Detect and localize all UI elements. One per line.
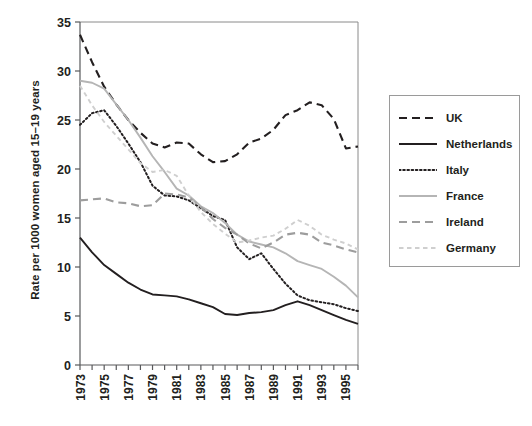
svg-text:1977: 1977 (122, 374, 136, 401)
svg-text:20: 20 (57, 163, 71, 177)
svg-text:1973: 1973 (74, 374, 88, 401)
svg-text:15: 15 (57, 212, 71, 226)
svg-text:35: 35 (57, 16, 71, 30)
legend-label-uk: UK (446, 112, 463, 124)
legend-label-ireland: Ireland (446, 216, 484, 228)
series-line-uk (80, 35, 358, 162)
legend-swatch-france (399, 190, 437, 202)
legend-label-germany: Germany (446, 242, 496, 254)
svg-text:1975: 1975 (98, 374, 112, 401)
chart-legend: UK Netherlands Italy France Ireland Germ… (389, 95, 520, 267)
svg-text:1981: 1981 (170, 374, 184, 401)
legend-label-netherlands: Netherlands (446, 138, 512, 150)
svg-text:1987: 1987 (243, 374, 257, 401)
chart-page: Rate per 1000 women aged 15–19 years 051… (0, 0, 532, 426)
legend-swatch-uk (399, 112, 437, 124)
legend-item-germany[interactable]: Germany (390, 235, 519, 261)
legend-item-ireland[interactable]: Ireland (390, 209, 519, 235)
series-line-france (80, 81, 358, 298)
svg-text:1979: 1979 (146, 374, 160, 401)
svg-text:0: 0 (64, 359, 71, 373)
svg-text:10: 10 (57, 261, 71, 275)
legend-label-italy: Italy (446, 164, 469, 176)
legend-swatch-netherlands (399, 138, 437, 150)
legend-swatch-italy (399, 164, 437, 176)
svg-text:5: 5 (64, 310, 71, 324)
svg-text:1985: 1985 (219, 374, 233, 401)
svg-text:1993: 1993 (315, 374, 329, 401)
legend-swatch-germany (399, 242, 437, 254)
plot-area: 0510152025303519731975197719791981198319… (0, 0, 385, 426)
legend-label-france: France (446, 190, 484, 202)
svg-text:1991: 1991 (291, 374, 305, 401)
series-line-ireland (80, 194, 358, 253)
line-chart: Rate per 1000 women aged 15–19 years 051… (0, 0, 385, 426)
legend-item-italy[interactable]: Italy (390, 157, 519, 183)
svg-text:1989: 1989 (267, 374, 281, 401)
svg-text:25: 25 (57, 114, 71, 128)
legend-item-france[interactable]: France (390, 183, 519, 209)
legend-item-uk[interactable]: UK (390, 105, 519, 131)
svg-text:30: 30 (57, 65, 71, 79)
legend-swatch-ireland (399, 216, 437, 228)
series-line-netherlands (80, 238, 358, 324)
series-line-italy (80, 110, 358, 311)
legend-item-netherlands[interactable]: Netherlands (390, 131, 519, 157)
svg-text:1995: 1995 (339, 374, 353, 401)
svg-text:1983: 1983 (194, 374, 208, 401)
